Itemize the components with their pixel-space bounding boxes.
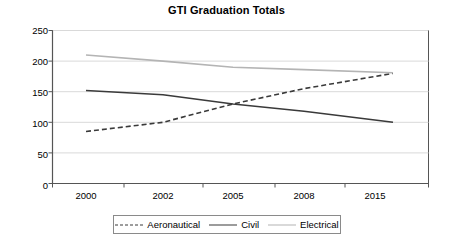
chart-container: GTI Graduation Totals 250 200 150 100 50… [0,0,453,246]
legend-item-electrical: Electrical [268,219,339,230]
legend-item-aeronautical: Aeronautical [115,219,200,230]
legend-label-aeronautical: Aeronautical [147,219,200,230]
legend-label-electrical: Electrical [300,219,339,230]
legend-label-civil: Civil [241,219,259,230]
x-axis-ticks [53,184,429,188]
plot-area [0,0,453,246]
plot-frame [53,31,429,184]
y-axis-ticks [49,31,53,184]
dashed-line-icon [115,222,143,228]
solid-light-line-icon [268,222,296,228]
chart-legend: Aeronautical Civil Electrical [113,215,341,234]
solid-dark-line-icon [209,222,237,228]
legend-item-civil: Civil [209,219,259,230]
